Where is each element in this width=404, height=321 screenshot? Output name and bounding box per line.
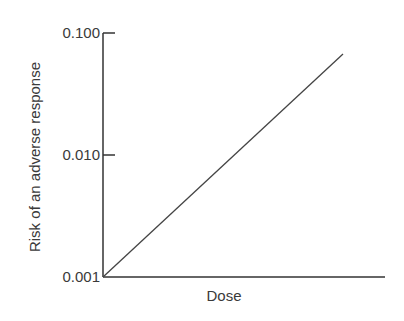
x-axis-label: Dose [206, 287, 241, 304]
chart: 0.100 0.010 0.001 Dose Risk of an advers… [0, 0, 404, 321]
y-axis-label: Risk of an adverse response [26, 62, 43, 252]
y-tick-label-top: 0.100 [62, 24, 100, 41]
dose-response-line [103, 54, 343, 277]
y-tick-label-bottom: 0.001 [62, 268, 100, 285]
y-tick-label-middle: 0.010 [62, 146, 100, 163]
